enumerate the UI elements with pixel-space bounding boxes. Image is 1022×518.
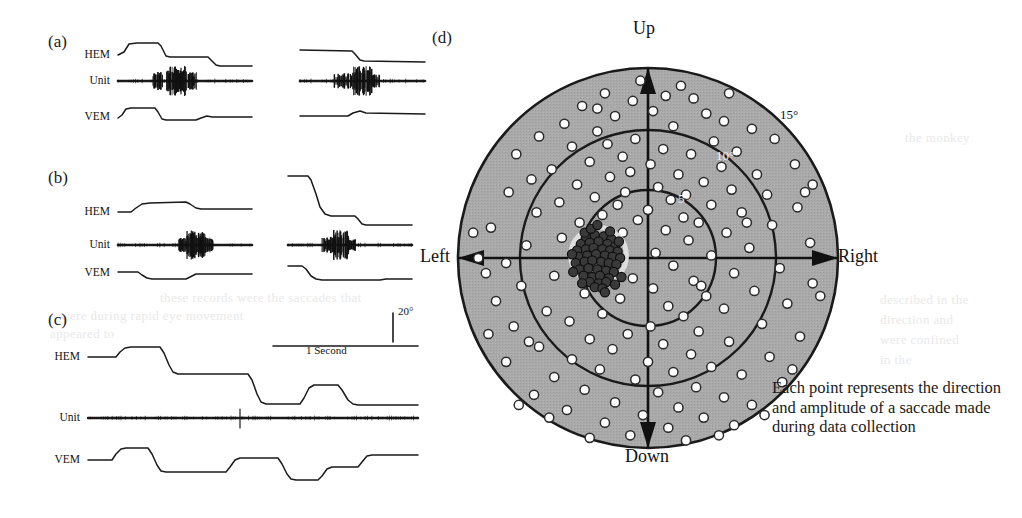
saccade-point-open	[600, 89, 609, 98]
saccade-point-open	[502, 357, 511, 366]
saccade-point-open	[598, 309, 607, 318]
saccade-point-open	[757, 319, 766, 328]
saccade-point-open	[491, 296, 500, 305]
bleedthrough-text: direction and	[880, 312, 953, 328]
saccade-point-open	[610, 398, 619, 407]
saccade-point-dense	[614, 237, 623, 246]
trace-label-a-unit: Unit	[38, 74, 110, 86]
saccade-point-open	[730, 421, 739, 430]
axis-label-right: Right	[838, 246, 878, 267]
saccade-point-open	[816, 291, 825, 300]
saccade-point-open	[580, 289, 589, 298]
saccade-point-open	[613, 200, 622, 209]
saccade-point-open	[793, 203, 802, 212]
saccade-point-open	[578, 101, 587, 110]
trace-b-vem-left	[118, 272, 252, 279]
saccade-point-open	[707, 362, 716, 371]
saccade-point-open	[643, 357, 652, 366]
saccade-point-open	[709, 137, 718, 146]
saccade-point-open	[666, 195, 675, 204]
saccade-point-open	[689, 94, 698, 103]
saccade-point-open	[575, 218, 584, 227]
unit-spike-bursts	[88, 66, 423, 420]
trace-label-c-hem: HEM	[8, 350, 80, 362]
saccade-point-open	[534, 342, 543, 351]
saccade-point-open	[719, 304, 728, 313]
trace-b-hem-right	[288, 176, 412, 225]
saccade-point-open	[707, 251, 716, 260]
saccade-point-open	[590, 193, 599, 202]
saccade-point-open	[595, 365, 604, 374]
saccade-point-dense	[605, 227, 614, 236]
saccade-point-open	[557, 233, 566, 242]
saccade-point-open	[800, 188, 809, 197]
figure-root: these records were the saccades thatwere…	[0, 0, 1022, 518]
saccade-point-open	[529, 390, 538, 399]
saccade-point-open	[679, 213, 688, 222]
saccade-point-open	[752, 170, 761, 179]
trace-label-a-vem: VEM	[38, 110, 110, 122]
saccade-point-open	[788, 365, 797, 374]
saccade-point-open	[572, 180, 581, 189]
saccade-point-open	[585, 334, 594, 343]
saccade-point-open	[532, 208, 541, 217]
saccade-point-dense	[600, 288, 609, 297]
trace-c-vem	[88, 448, 418, 480]
saccade-point-open	[605, 172, 614, 181]
trace-a-vem-left	[118, 108, 252, 120]
saccade-point-open	[795, 332, 804, 341]
saccade-point-open	[623, 329, 632, 338]
saccade-point-open	[745, 243, 754, 252]
saccade-point-open	[702, 291, 711, 300]
saccade-point-open	[768, 220, 777, 229]
saccade-point-open	[522, 241, 531, 250]
saccade-point-open	[600, 418, 609, 427]
saccade-point-dense	[578, 279, 587, 288]
saccade-point-open	[765, 352, 774, 361]
saccade-point-open	[808, 279, 817, 288]
saccade-point-open	[608, 345, 617, 354]
saccade-point-open	[628, 274, 637, 283]
saccade-point-open	[686, 150, 695, 159]
saccade-point-open	[648, 106, 657, 115]
saccade-point-open	[669, 261, 678, 270]
saccade-point-open	[659, 144, 668, 153]
saccade-point-open	[694, 327, 703, 336]
saccade-point-open	[618, 152, 627, 161]
ring-label-5deg: 5°	[678, 191, 690, 207]
saccade-point-open	[681, 436, 690, 445]
saccade-point-open	[598, 210, 607, 219]
saccade-point-dense	[610, 280, 619, 289]
saccade-point-open	[770, 134, 779, 143]
saccade-point-open	[486, 223, 495, 232]
saccade-point-open	[585, 433, 594, 442]
saccade-point-open	[562, 405, 571, 414]
saccade-point-open	[514, 400, 523, 409]
saccade-point-open	[750, 286, 759, 295]
saccade-point-open	[631, 134, 640, 143]
saccade-point-open	[593, 127, 602, 136]
saccade-point-open	[527, 175, 536, 184]
saccade-point-open	[760, 410, 769, 419]
saccade-point-open	[722, 228, 731, 237]
saccade-point-open	[742, 218, 751, 227]
saccade-point-open	[550, 372, 559, 381]
bleedthrough-text: were confined	[880, 332, 959, 348]
trace-a-hem-left	[118, 43, 252, 66]
saccade-point-open	[714, 431, 723, 440]
saccade-point-open	[481, 269, 490, 278]
trace-c-hem	[88, 347, 418, 405]
saccade-point-open	[783, 299, 792, 308]
saccade-point-open	[603, 139, 612, 148]
ring-label-15deg: 15°	[780, 107, 798, 123]
saccade-point-open	[679, 312, 688, 321]
trace-label-c-unit: Unit	[8, 411, 80, 423]
saccade-point-open	[474, 253, 483, 262]
saccade-point-dense	[569, 267, 578, 276]
saccade-point-open	[646, 160, 655, 169]
saccade-point-open	[512, 150, 521, 159]
saccade-point-open	[524, 337, 533, 346]
figure-caption: Each point represents the direction and …	[772, 378, 1022, 437]
saccade-point-open	[555, 198, 564, 207]
saccade-point-open	[674, 170, 683, 179]
